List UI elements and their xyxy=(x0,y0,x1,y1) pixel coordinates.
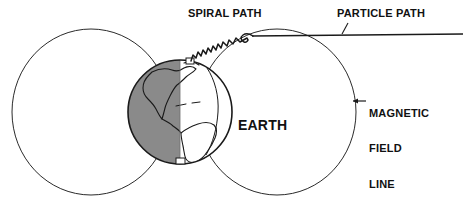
magnetosphere-diagram: SPIRAL PATH PARTICLE PATH EARTH MAGNETIC… xyxy=(0,0,472,202)
particle-path-leader xyxy=(342,23,348,34)
earth-label: EARTH xyxy=(238,118,287,133)
magnetic-field-line-label-row-1: MAGNETIC xyxy=(369,108,429,120)
magnetic-field-line-label-row-3: LINE xyxy=(369,179,429,191)
particle-path-line xyxy=(252,34,463,36)
south-pole-marker xyxy=(176,158,185,164)
magnetic-field-line-label: MAGNETIC FIELD LINE xyxy=(369,84,429,202)
magnetic-field-line-label-row-2: FIELD xyxy=(369,143,429,155)
spiral-path-line xyxy=(191,34,253,61)
north-pole-marker xyxy=(186,58,194,64)
particle-path-label: PARTICLE PATH xyxy=(337,8,425,20)
earth-night-hemisphere xyxy=(126,58,180,168)
spiral-path-label: SPIRAL PATH xyxy=(188,8,262,20)
